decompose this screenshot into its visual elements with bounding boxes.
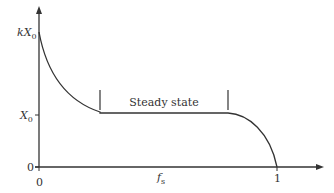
y-tick-label-zero: 0	[27, 161, 34, 174]
steady-state-label: Steady state	[129, 96, 198, 109]
y-tick-label-x0: X0	[19, 109, 33, 124]
y-axis	[35, 6, 42, 167]
x-axis-label: fs	[156, 171, 165, 186]
x-tick-label-zero: 0	[36, 176, 43, 189]
y-tick-label-kx0: kX0	[17, 26, 37, 41]
diagram-canvas: Steady state kX0 X0 0 0 1 fs	[0, 0, 334, 193]
x-tick-label-one: 1	[274, 172, 281, 185]
x-axis-arrow-icon	[316, 164, 324, 170]
x-axis	[35, 164, 324, 171]
y-axis-arrow-icon	[36, 6, 42, 14]
